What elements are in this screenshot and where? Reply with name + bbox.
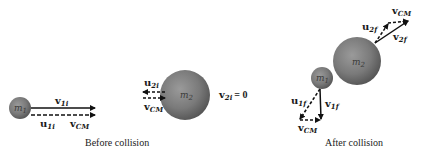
u2i-label: u2i	[144, 77, 159, 90]
before-ball-m1: m1	[9, 97, 31, 119]
vcm-label-before-1: vCM	[69, 118, 89, 131]
u2f-label: u2f	[362, 21, 379, 34]
before-caption: Before collision	[85, 137, 149, 148]
before-ball-m2: m2	[160, 70, 210, 120]
vcm-label-after-1: vCM	[297, 122, 317, 135]
vcm-label-before-2: vCM	[143, 101, 163, 114]
u1i-label: u1i	[40, 118, 55, 131]
vcm-label-after-2: vCM	[391, 5, 411, 18]
collision-diagram: m1 v1i u1i vCM m2 u2i vCM v2i= 0 Before …	[0, 0, 423, 162]
v1f-arrow	[320, 89, 321, 119]
after-ball-m1: m1	[311, 67, 333, 89]
v2i-label: v2i= 0	[218, 89, 248, 102]
u1f-label: u1f	[291, 95, 308, 108]
v1i-label: v1i	[54, 95, 69, 108]
v2f-label: v2f	[392, 31, 409, 44]
v1f-label: v1f	[324, 98, 341, 111]
after-caption: After collision	[325, 137, 383, 148]
after-ball-m2: m2	[333, 37, 381, 85]
